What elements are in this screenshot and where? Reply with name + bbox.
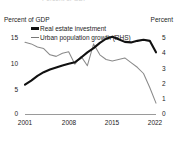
right-axis-tick-0: 0: [162, 110, 176, 117]
right-axis-tick-2: 2: [162, 80, 176, 87]
x-axis-tick-2015: 2015: [97, 119, 127, 126]
left-axis-tick-10: 10: [4, 60, 18, 67]
right-axis-tick-4: 4: [162, 49, 176, 56]
legend-item-real-estate-investment: Real estate investment: [31, 24, 171, 33]
x-axis-line: [25, 114, 156, 115]
chart-container: Percent of GDP Percent of GDP Percent Re…: [0, 0, 176, 141]
right-axis-tick-3: 3: [162, 65, 176, 72]
clipped-header-text: Percent of GDP: [42, 0, 134, 7]
plot-area: [25, 33, 156, 114]
right-axis-tick-1: 1: [162, 95, 176, 102]
x-axis-tick-2001: 2001: [10, 119, 40, 126]
series-line-real-estate-investment: [25, 37, 156, 85]
x-axis-tick-2022: 2022: [140, 119, 170, 126]
legend-line-swatch-icon: [31, 27, 39, 29]
left-axis-tick-15: 15: [4, 34, 18, 41]
left-axis-tick-0: 0: [4, 110, 18, 117]
x-axis-tick-2008: 2008: [54, 119, 84, 126]
right-axis-tick-5: 5: [162, 34, 176, 41]
series-svg: [25, 33, 156, 114]
right-axis-unit-label: Percent: [151, 16, 173, 24]
left-axis-tick-5: 5: [4, 86, 18, 93]
legend-item-label: Real estate investment: [40, 24, 106, 33]
left-axis-unit-label: Percent of GDP: [4, 16, 50, 24]
